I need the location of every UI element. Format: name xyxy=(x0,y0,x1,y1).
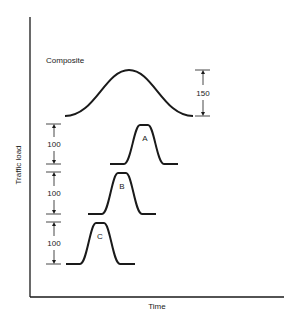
y-axis-label: Traffic load xyxy=(14,145,23,184)
curve-a xyxy=(110,125,178,164)
curve-c-height-label: 100 xyxy=(47,239,61,248)
curve-b xyxy=(88,173,156,214)
curve-c-group: C 100 xyxy=(46,222,135,264)
curve-b-height-label: 100 xyxy=(47,189,61,198)
curve-a-height-label: 100 xyxy=(47,140,61,149)
traffic-load-diagram: Traffic load Time Composite 150 A 100 B xyxy=(0,0,296,326)
curve-c xyxy=(66,223,135,264)
curve-a-group: A 100 xyxy=(46,124,178,164)
composite-label: Composite xyxy=(46,56,85,65)
composite-curve-group: Composite 150 xyxy=(46,56,210,116)
composite-curve xyxy=(65,70,193,116)
curve-a-label: A xyxy=(142,134,148,143)
curve-b-group: B 100 xyxy=(46,172,156,214)
curve-c-label: C xyxy=(97,232,103,241)
x-axis-label: Time xyxy=(148,302,166,311)
curve-b-label: B xyxy=(119,182,124,191)
diagram-svg: Traffic load Time Composite 150 A 100 B xyxy=(0,0,296,326)
composite-height-label: 150 xyxy=(196,89,210,98)
